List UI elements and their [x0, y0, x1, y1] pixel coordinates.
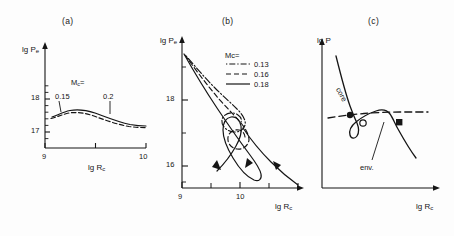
- panel-a-leader-015: [59, 101, 61, 112]
- panel-c: (c) lg P lg Rc core env.: [300, 0, 454, 236]
- panel-a-plot: [0, 0, 158, 236]
- panel-c-y-axis-arrow: [319, 38, 325, 45]
- panel-b-curve-016: [185, 55, 249, 149]
- panel-c-marker-filled-square: [396, 119, 402, 125]
- panel-b-curve-013: [186, 56, 245, 132]
- panel-c-plot: [300, 0, 454, 236]
- panel-a: (a) lg Pe lg Rc 18 17 9 10 Mc= 0.15 0.2: [0, 0, 158, 236]
- panel-c-curve-env: [328, 112, 428, 118]
- panel-b: (b) lg Pe lg Rc 18 16 9 10 Mc= 0.13 0.16…: [155, 0, 307, 236]
- panel-c-x-axis-arrow: [433, 185, 440, 191]
- panel-b-arrow-down-right: [245, 158, 253, 168]
- panel-a-y-axis-arrow: [42, 42, 48, 49]
- panel-c-marker-filled-circle: [347, 112, 353, 118]
- panel-c-marker-open-circle: [360, 120, 366, 126]
- panel-b-plot: [155, 0, 307, 236]
- panel-b-y-axis-arrow: [179, 36, 185, 43]
- panel-c-curve-core: [336, 56, 416, 158]
- panel-b-arrow-up-left: [212, 160, 221, 170]
- figure-container: (a) lg Pe lg Rc 18 17 9 10 Mc= 0.15 0.2: [0, 0, 454, 236]
- panel-c-leader-env: [372, 122, 384, 160]
